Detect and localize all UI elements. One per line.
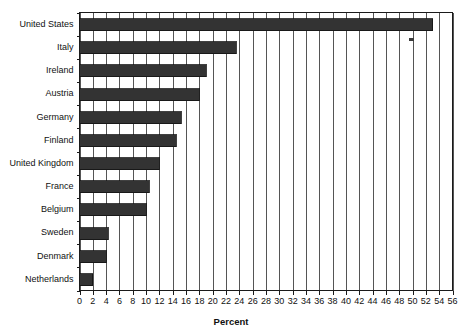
bar-ireland	[80, 65, 207, 77]
bar-united-kingdom	[80, 158, 160, 170]
bar-italy	[80, 42, 237, 54]
category-label-italy: Italy	[57, 42, 74, 52]
bar-finland	[80, 135, 177, 147]
category-label-france: France	[45, 181, 73, 191]
bar-united-states	[80, 19, 433, 31]
chart-canvas: 0246810121416182022242628303234363840424…	[0, 0, 462, 331]
xtick-label-38: 38	[328, 296, 338, 306]
xtick-label-10: 10	[141, 296, 151, 306]
category-label-austria: Austria	[45, 88, 73, 98]
category-label-finland: Finland	[44, 135, 74, 145]
bar-netherlands	[80, 274, 93, 286]
category-label-germany: Germany	[36, 112, 74, 122]
xtick-label-30: 30	[274, 296, 284, 306]
xtick-label-42: 42	[354, 296, 364, 306]
xtick-label-12: 12	[154, 296, 164, 306]
bar-france	[80, 181, 150, 193]
category-label-netherlands: Netherlands	[25, 274, 74, 284]
xtick-label-46: 46	[381, 296, 391, 306]
category-label-sweden: Sweden	[41, 227, 74, 237]
xtick-label-56: 56	[447, 296, 457, 306]
xaxis-title: Percent	[214, 316, 250, 327]
scan-speck	[409, 38, 414, 41]
xtick-label-44: 44	[368, 296, 378, 306]
xtick-label-0: 0	[77, 296, 82, 306]
xtick-label-2: 2	[90, 296, 95, 306]
category-label-denmark: Denmark	[37, 251, 74, 261]
scan-artifact	[409, 38, 414, 41]
xtick-label-20: 20	[208, 296, 218, 306]
category-label-belgium: Belgium	[41, 204, 74, 214]
xtick-label-24: 24	[234, 296, 244, 306]
xtick-label-34: 34	[301, 296, 311, 306]
xtick-label-14: 14	[168, 296, 178, 306]
bar-germany	[80, 112, 182, 124]
bar-belgium	[80, 204, 147, 216]
xtick-label-28: 28	[261, 296, 271, 306]
bar-denmark	[80, 251, 107, 263]
xtick-label-8: 8	[130, 296, 135, 306]
category-label-united-kingdom: United Kingdom	[9, 158, 73, 168]
category-label-united-states: United States	[19, 19, 74, 29]
bar-austria	[80, 89, 200, 101]
xtick-label-54: 54	[434, 296, 444, 306]
xtick-label-4: 4	[104, 296, 109, 306]
xtick-label-16: 16	[181, 296, 191, 306]
xaxis-tick-labels: 0246810121416182022242628303234363840424…	[77, 296, 458, 306]
bar-chart: 0246810121416182022242628303234363840424…	[0, 0, 462, 331]
xtick-label-6: 6	[117, 296, 122, 306]
category-label-ireland: Ireland	[46, 65, 74, 75]
bar-sweden	[80, 228, 109, 240]
xtick-label-26: 26	[248, 296, 258, 306]
xtick-label-40: 40	[341, 296, 351, 306]
xtick-label-18: 18	[194, 296, 204, 306]
xtick-label-32: 32	[288, 296, 298, 306]
xtick-label-36: 36	[314, 296, 324, 306]
xtick-label-50: 50	[408, 296, 418, 306]
xtick-label-48: 48	[394, 296, 404, 306]
xtick-label-52: 52	[421, 296, 431, 306]
xtick-label-22: 22	[221, 296, 231, 306]
